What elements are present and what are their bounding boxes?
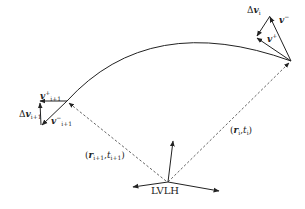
position-vector-i-plus-1 [69, 103, 166, 181]
lvlh-frame-label: LVLH [151, 186, 179, 196]
lvlh-axis-up [168, 141, 173, 182]
position-vector-i [168, 63, 289, 182]
v-minus-i-plus-1-label: v−i+1 [51, 115, 72, 127]
trajectory-arc [67, 43, 291, 101]
position-label-i: (ri,ti) [230, 126, 252, 136]
v-minus-i-label: v− [279, 14, 289, 25]
v-plus-i-plus-1-label: v+i+1 [40, 90, 61, 102]
trajectory-diagram: Δvi v− v+ v+i+1 Δvi+1 v−i+1 (ri,ti) (ri+… [0, 0, 305, 209]
position-label-i-plus-1: (ri+1,ti+1) [85, 151, 125, 161]
delta-v-i-label: Δvi [247, 6, 261, 16]
diagram-graphics [0, 0, 305, 209]
delta-v-i-plus-1-label: Δvi+1 [19, 110, 42, 120]
v-plus-i-label: v+ [267, 33, 277, 44]
